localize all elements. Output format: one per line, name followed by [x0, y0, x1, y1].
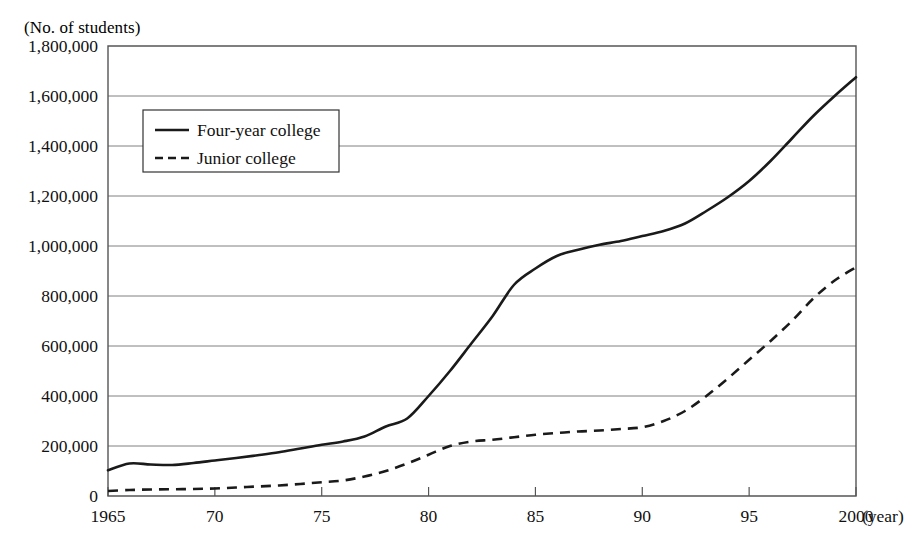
y-tick-label: 1,000,000 [28, 236, 98, 256]
y-tick-label: 1,600,000 [28, 86, 98, 106]
y-tick-label: 0 [89, 486, 98, 506]
y-tick-label: 1,200,000 [28, 186, 98, 206]
y-tick-label: 1,400,000 [28, 136, 98, 156]
legend-item-label: Four-year college [197, 120, 321, 140]
x-tick-label: 80 [420, 506, 438, 526]
y-tick-label: 600,000 [41, 336, 98, 356]
legend-item-label: Junior college [197, 148, 296, 168]
x-axis-unit-text: (year) [862, 506, 904, 526]
series-line-junior-college [108, 267, 856, 491]
y-axis-unit-label: (No. of students) [24, 18, 140, 38]
y-tick-label: 1,800,000 [28, 36, 98, 56]
y-tick-label: 400,000 [41, 386, 98, 406]
chart-legend: Four-year collegeJunior college [143, 110, 339, 172]
line-chart-svg: 0200,000400,000600,000800,0001,000,0001,… [0, 0, 924, 539]
x-tick-label: 1965 [91, 506, 126, 526]
y-tick-label: 200,000 [41, 436, 98, 456]
x-tick-marks-group [108, 487, 856, 496]
chart-figure: (No. of students) 0200,000400,000600,000… [0, 0, 924, 539]
x-tick-label: 95 [740, 506, 758, 526]
x-tick-label: 90 [634, 506, 652, 526]
y-tick-labels-group: 0200,000400,000600,000800,0001,000,0001,… [28, 36, 98, 506]
y-tick-label: 800,000 [41, 286, 98, 306]
x-tick-label: 75 [313, 506, 331, 526]
x-tick-label: 85 [527, 506, 545, 526]
x-tick-labels-group: 19657075808590952000 [91, 506, 874, 526]
x-tick-label: 70 [206, 506, 224, 526]
x-axis-unit-label: (year) [862, 506, 904, 526]
